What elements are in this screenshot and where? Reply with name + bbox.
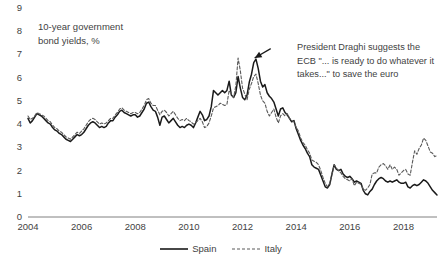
- chart-title: 10-year government bond yields, %: [38, 20, 168, 48]
- x-axis-tick-label: 2010: [169, 222, 209, 232]
- x-axis-tick-label: 2018: [383, 222, 423, 232]
- x-axis-tick-label: 2014: [276, 222, 316, 232]
- x-axis-tick-label: 2016: [330, 222, 370, 232]
- annotation-arrow: [255, 49, 271, 58]
- y-axis-tick-label: 4: [8, 119, 22, 129]
- y-axis-tick-label: 5: [8, 96, 22, 106]
- legend-swatch-italy: [232, 245, 260, 253]
- legend-label: Italy: [264, 243, 281, 254]
- y-axis-tick-label: 9: [8, 3, 22, 13]
- x-axis-tick-label: 2004: [8, 222, 48, 232]
- x-axis-tick-label: 2008: [115, 222, 155, 232]
- y-axis-tick-label: 3: [8, 142, 22, 152]
- legend-item-italy[interactable]: Italy: [232, 243, 281, 254]
- draghi-annotation-text: President Draghi suggests the ECB "... i…: [297, 41, 437, 82]
- legend-item-spain[interactable]: Spain: [160, 243, 216, 254]
- y-axis-tick-label: 2: [8, 166, 22, 176]
- y-axis-tick-label: 8: [8, 26, 22, 36]
- legend-swatch-spain: [160, 245, 188, 253]
- x-axis-tick-label: 2012: [223, 222, 263, 232]
- y-axis-tick-label: 7: [8, 49, 22, 59]
- x-axis-tick-label: 2006: [62, 222, 102, 232]
- y-axis-tick-label: 1: [8, 189, 22, 199]
- y-axis-tick-label: 6: [8, 73, 22, 83]
- bond-yields-chart: 0123456789 20042006200820102012201420162…: [0, 0, 442, 268]
- chart-legend: Spain Italy: [0, 243, 442, 254]
- legend-label: Spain: [192, 243, 216, 254]
